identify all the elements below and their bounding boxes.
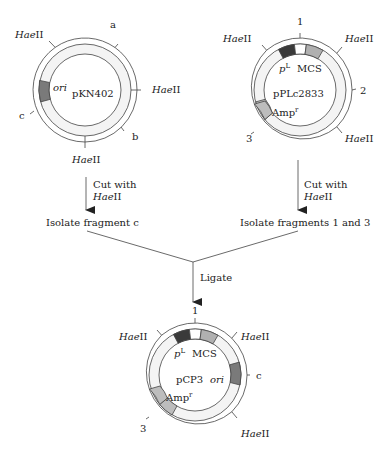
mcs-segment xyxy=(189,329,201,339)
haeii-label: HaeII xyxy=(344,133,374,144)
ori-segment xyxy=(39,80,50,102)
mcs-segment xyxy=(294,44,306,54)
ori-label: ori xyxy=(53,82,67,93)
fragment-b-label: b xyxy=(132,131,138,142)
amp-label: Ampr xyxy=(165,391,193,403)
fragment-c-label: c xyxy=(19,110,25,121)
haeii-site-tick xyxy=(232,412,237,418)
haeii-site-tick xyxy=(49,41,55,47)
plasmid-name: pCP3 xyxy=(176,374,203,385)
isolate-fragment-c: Isolate fragment c xyxy=(46,217,139,228)
step-label: Cut with xyxy=(93,179,137,190)
haeii-label: HaeII xyxy=(222,33,252,44)
haeii-label: HaeII xyxy=(240,331,270,342)
fragment-1-label: 1 xyxy=(297,16,303,27)
haeii-label: HaeII xyxy=(118,331,148,342)
haeii-site-tick xyxy=(337,47,342,53)
ligate-label: Ligate xyxy=(200,272,232,283)
step-label-enzyme: HaeII xyxy=(92,191,122,202)
mcs-label: MCS xyxy=(297,63,322,74)
converge-line-right xyxy=(193,231,298,262)
step-label: Cut with xyxy=(304,179,348,190)
plasmid-name: pKN402 xyxy=(72,88,114,99)
plasmid-name: pPLc2833 xyxy=(273,88,324,99)
promoter-label: pL xyxy=(174,347,185,359)
isolate-fragments-1-and-3: Isolate fragments 1 and 3 xyxy=(240,217,370,228)
plasmid-pcp3: HaeII HaeII HaeII 1 c 3 pL MCS pCP3 ori … xyxy=(118,305,270,439)
haeii-label: HaeII xyxy=(240,428,270,439)
haeii-label: HaeII xyxy=(14,29,44,40)
plasmid-pplc2833: HaeII HaeII HaeII 1 2 3 pL MCS pPLc2833 … xyxy=(222,16,374,144)
amp-label: Ampr xyxy=(271,106,299,118)
haeii-site-tick xyxy=(337,127,342,133)
fragment-c-label: c xyxy=(256,370,262,381)
fragment-a-label: a xyxy=(110,19,116,30)
converge-line-left xyxy=(87,231,193,262)
ori-label: ori xyxy=(210,374,224,385)
mcs-label: MCS xyxy=(192,348,217,359)
plasmid-pkn402: HaeII HaeII HaeII a b c ori pKN402 xyxy=(14,19,181,165)
cloning-diagram: HaeII HaeII HaeII a b c ori pKN402 Cut w… xyxy=(0,0,391,457)
promoter-label: pL xyxy=(279,62,290,74)
haeii-label: HaeII xyxy=(71,154,101,165)
ori-segment xyxy=(230,362,241,385)
fragment-3-label: 3 xyxy=(140,423,146,434)
haeii-label: HaeII xyxy=(344,33,374,44)
haeii-site-tick xyxy=(262,45,267,50)
fragment-1-label: 1 xyxy=(192,305,198,316)
fragment-3-label: 3 xyxy=(246,133,252,144)
haeii-label: HaeII xyxy=(151,84,181,95)
fragment-2-label: 2 xyxy=(360,85,366,96)
step-label-enzyme: HaeII xyxy=(303,191,333,202)
haeii-site-tick xyxy=(232,332,237,338)
haeii-site-tick xyxy=(157,330,162,335)
